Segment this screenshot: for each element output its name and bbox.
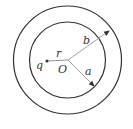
label-r: r [56, 47, 62, 60]
label-O: O [58, 63, 67, 76]
charge-point [46, 60, 49, 63]
shells-diagram: b r q O a [0, 0, 133, 129]
label-b: b [83, 34, 90, 47]
label-q: q [36, 59, 43, 72]
distance-r-line [47, 60, 68, 61]
label-a: a [85, 65, 92, 78]
